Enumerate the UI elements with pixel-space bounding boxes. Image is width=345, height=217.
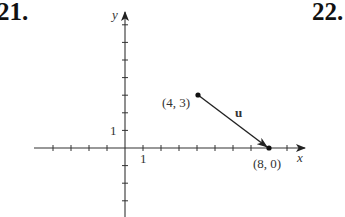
- point-start: [195, 92, 200, 97]
- coordinate-plane: x y 1 1 (4, 3) (8, 0) u: [0, 0, 345, 217]
- x-axis: [34, 145, 305, 151]
- y-unit-label: 1: [110, 123, 117, 138]
- vector-u: [195, 92, 271, 150]
- x-axis-label: x: [296, 150, 303, 165]
- point-label-start: (4, 3): [162, 95, 190, 110]
- y-axis: [122, 12, 128, 217]
- x-unit-label: 1: [140, 151, 147, 166]
- point-end: [266, 145, 271, 150]
- vector-label: u: [235, 105, 242, 120]
- point-label-end: (8, 0): [253, 156, 281, 171]
- y-axis-label: y: [110, 7, 118, 22]
